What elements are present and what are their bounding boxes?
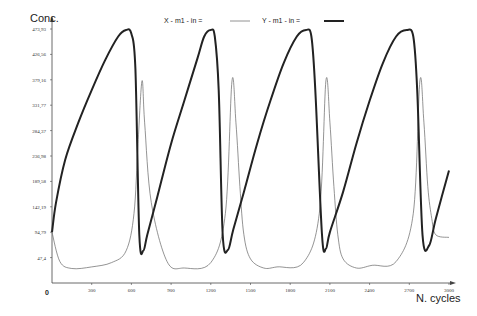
legend-label-y: Y - m1 - in = bbox=[262, 17, 300, 24]
series-y-line bbox=[52, 29, 449, 254]
x-axis-label: N. cycles bbox=[416, 292, 461, 304]
y-tick-label: 473,93 bbox=[32, 27, 46, 33]
y-tick-labels: 473,93426,56379,16331,77284,37236,98189,… bbox=[32, 27, 52, 262]
line-chart: 473,93426,56379,16331,77284,37236,98189,… bbox=[0, 0, 477, 316]
y-tick-label: 426,56 bbox=[32, 52, 46, 58]
x-tick-label: 2700 bbox=[404, 288, 415, 293]
y-tick-label: 236,98 bbox=[32, 154, 46, 160]
y-tick-label: 47,4 bbox=[37, 256, 46, 262]
x-tick-label: 1500 bbox=[246, 288, 257, 293]
x-tick-label: 1200 bbox=[206, 288, 217, 293]
x-tick-label: 900 bbox=[167, 288, 175, 293]
x-axis-arrow-icon bbox=[450, 281, 456, 285]
x-tick-labels: 3006009001200150018002100240027003000 bbox=[88, 283, 455, 293]
x-tick-label: 600 bbox=[128, 288, 136, 293]
y-axis-label: Conc. bbox=[30, 12, 59, 24]
series-x-line bbox=[52, 77, 449, 268]
legend-label-x: X - m1 - in = bbox=[164, 17, 202, 24]
y-tick-label: 284,37 bbox=[32, 129, 46, 135]
x-tick-label: 2400 bbox=[365, 288, 376, 293]
x-tick-label: 300 bbox=[88, 288, 96, 293]
y-tick-label: 142,19 bbox=[32, 205, 46, 211]
y-tick-label: 94,79 bbox=[35, 230, 47, 236]
x-tick-label: 2100 bbox=[325, 288, 336, 293]
y-tick-label: 379,16 bbox=[32, 78, 46, 84]
origin-label: 0 bbox=[45, 289, 49, 296]
x-tick-label: 1800 bbox=[285, 288, 296, 293]
legend: X - m1 - in = Y - m1 - in = bbox=[164, 17, 344, 24]
y-tick-label: 331,77 bbox=[32, 103, 46, 109]
y-tick-label: 189,58 bbox=[32, 179, 46, 185]
